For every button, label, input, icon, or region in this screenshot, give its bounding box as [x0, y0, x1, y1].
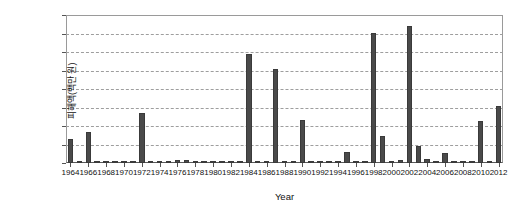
x-tick-label: 2006: [436, 168, 454, 177]
x-tick-mark: [374, 163, 375, 167]
bar: [416, 146, 422, 163]
x-tick-label: 2004: [418, 168, 436, 177]
bar: [148, 161, 154, 163]
x-tick-label: 1990: [293, 168, 311, 177]
x-tick-label: 1982: [222, 168, 240, 177]
bar: [237, 161, 243, 163]
x-tick-label: 1964: [62, 168, 80, 177]
x-axis-title: Year: [66, 191, 503, 202]
plot-area: 010,00020,00030,00040,00050,00060,00070,…: [66, 15, 503, 163]
bar: [308, 161, 314, 163]
bar: [300, 120, 306, 163]
x-tick-mark: [213, 163, 214, 167]
bar: [469, 161, 475, 163]
gridline: [66, 71, 503, 72]
x-tick-mark: [70, 163, 71, 167]
bar: [398, 160, 404, 163]
bar: [291, 161, 297, 163]
gridline: [66, 89, 503, 90]
bar: [219, 161, 225, 163]
bar: [407, 26, 413, 163]
bar: [380, 136, 386, 163]
bar: [77, 161, 83, 163]
y-tick-mark: [62, 15, 66, 16]
x-tick-mark: [409, 163, 410, 167]
x-tick-mark: [195, 163, 196, 167]
bar: [201, 161, 207, 163]
bar: [496, 106, 502, 163]
x-tick-mark: [142, 163, 143, 167]
y-tick-mark: [62, 52, 66, 53]
y-axis-title: 피해액(백만 원): [65, 63, 78, 120]
x-tick-label: 1968: [97, 168, 115, 177]
bar: [139, 113, 145, 163]
x-tick-label: 1974: [151, 168, 169, 177]
bar: [166, 161, 172, 163]
x-tick-mark: [320, 163, 321, 167]
x-tick-mark: [106, 163, 107, 167]
x-tick-label: 1996: [347, 168, 365, 177]
gridline: [66, 145, 503, 146]
x-tick-mark: [427, 163, 428, 167]
x-tick-mark: [481, 163, 482, 167]
x-tick-mark: [302, 163, 303, 167]
x-tick-mark: [160, 163, 161, 167]
bar: [246, 54, 252, 163]
bar: [362, 161, 368, 163]
x-tick-mark: [124, 163, 125, 167]
x-tick-mark: [177, 163, 178, 167]
x-tick-mark: [249, 163, 250, 167]
x-tick-mark: [285, 163, 286, 167]
gridline: [66, 108, 503, 109]
x-tick-mark: [445, 163, 446, 167]
x-tick-label: 2012: [490, 168, 508, 177]
bar: [94, 161, 100, 163]
x-tick-mark: [499, 163, 500, 167]
y-tick-mark: [62, 126, 66, 127]
bar: [184, 160, 190, 163]
x-tick-label: 1988: [276, 168, 294, 177]
bar: [487, 161, 493, 163]
bar: [273, 69, 279, 163]
x-tick-label: 2000: [383, 168, 401, 177]
bar: [112, 161, 118, 163]
x-tick-label: 1980: [204, 168, 222, 177]
x-tick-mark: [338, 163, 339, 167]
x-tick-label: 1972: [133, 168, 151, 177]
gridline: [66, 52, 503, 53]
bar: [478, 121, 484, 163]
x-tick-label: 1986: [258, 168, 276, 177]
bar: [86, 132, 92, 163]
x-tick-label: 1970: [115, 168, 133, 177]
bar: [442, 153, 448, 163]
x-tick-label: 1992: [311, 168, 329, 177]
x-tick-mark: [463, 163, 464, 167]
x-tick-label: 1998: [365, 168, 383, 177]
x-tick-label: 1994: [329, 168, 347, 177]
y-tick-mark: [62, 145, 66, 146]
y-tick-mark: [62, 163, 66, 164]
bar: [371, 33, 377, 163]
x-tick-label: 2008: [454, 168, 472, 177]
x-tick-mark: [231, 163, 232, 167]
x-tick-label: 1978: [186, 168, 204, 177]
chart-container: 010,00020,00030,00040,00050,00060,00070,…: [0, 0, 519, 208]
gridline: [66, 34, 503, 35]
bar: [130, 161, 136, 163]
x-tick-mark: [267, 163, 268, 167]
bar: [451, 161, 457, 163]
x-tick-mark: [356, 163, 357, 167]
bar: [344, 152, 350, 163]
bar: [326, 161, 332, 163]
x-tick-label: 2002: [400, 168, 418, 177]
x-tick-label: 1984: [240, 168, 258, 177]
x-tick-label: 1976: [169, 168, 187, 177]
gridline: [66, 126, 503, 127]
bar: [68, 139, 74, 163]
bar: [433, 161, 439, 163]
x-tick-mark: [88, 163, 89, 167]
x-tick-label: 1966: [79, 168, 97, 177]
y-tick-mark: [62, 34, 66, 35]
x-tick-mark: [392, 163, 393, 167]
bar: [255, 161, 261, 163]
